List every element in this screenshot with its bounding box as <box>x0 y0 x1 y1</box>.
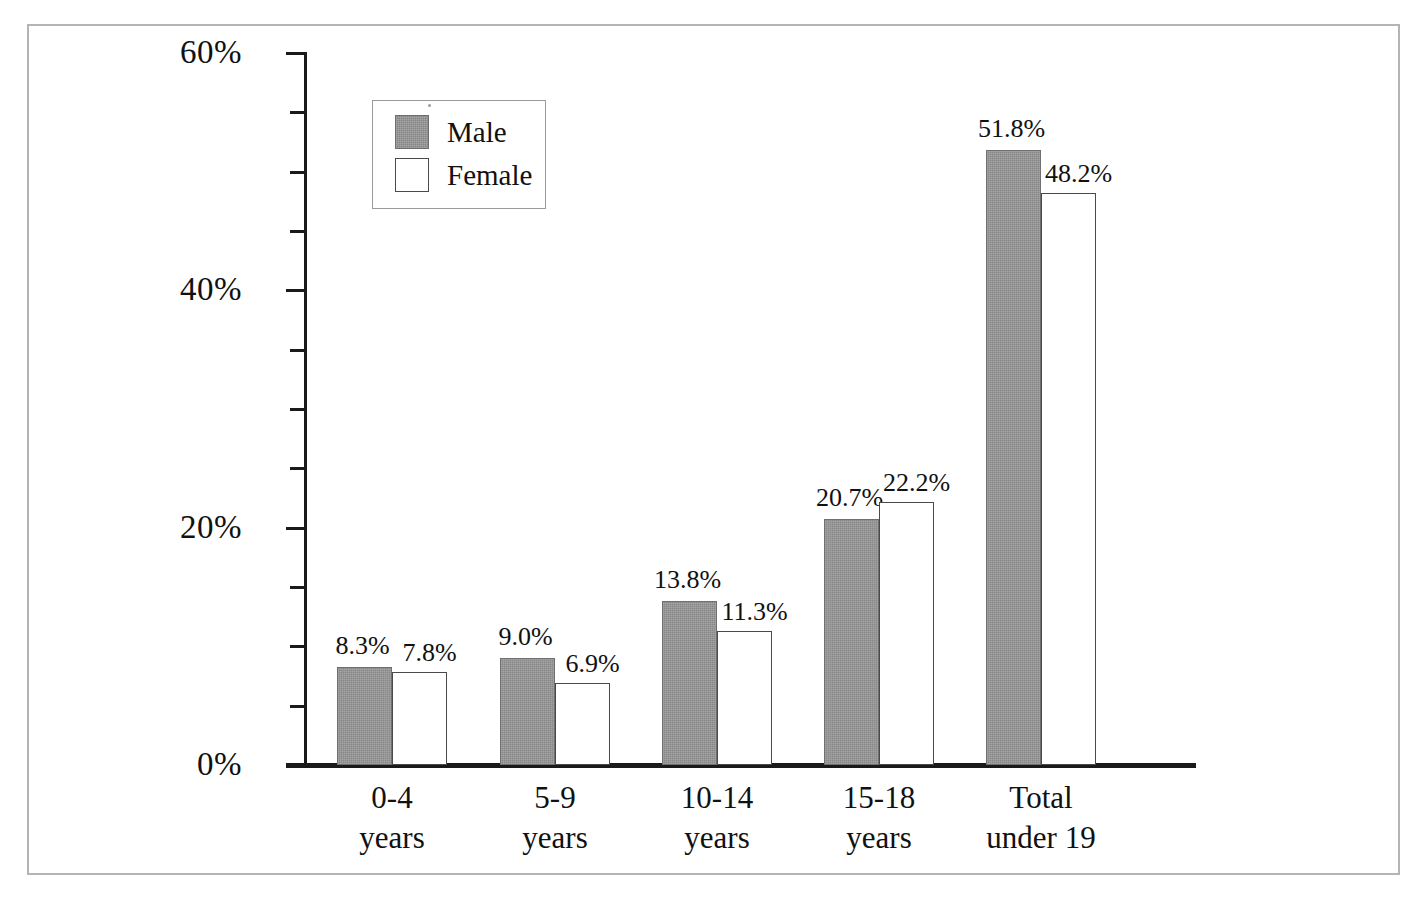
x-axis-category-label: Totalunder 19 <box>921 778 1161 858</box>
legend-label-male: Male <box>447 116 507 149</box>
legend-label-female: Female <box>447 159 532 192</box>
bar-value-label: 7.8% <box>375 640 485 666</box>
y-axis-minor-tick <box>290 705 305 708</box>
y-axis-tick-label: 40% <box>180 273 242 306</box>
bar-value-label: 48.2% <box>1024 161 1134 187</box>
bar-female <box>555 683 610 765</box>
bar-value-label: 22.2% <box>862 470 972 496</box>
bar-chart-plot-area: 0%20%40%60% 8.3%9.0%13.8%20.7%51.8%7.8%6… <box>0 0 1427 903</box>
legend-swatch-female-icon <box>395 158 429 192</box>
y-axis-tick-label: 20% <box>180 511 242 544</box>
category-label-line2: under 19 <box>921 818 1161 858</box>
bar-female <box>717 631 772 765</box>
scan-speck <box>428 104 431 107</box>
bar-value-label: 6.9% <box>538 651 648 677</box>
y-axis-minor-tick <box>290 586 305 589</box>
y-axis-minor-tick <box>290 230 305 233</box>
y-axis-minor-tick <box>290 645 305 648</box>
chart-legend: Male Female <box>372 100 546 209</box>
y-axis-major-tick <box>286 52 305 55</box>
bar-female <box>392 672 447 765</box>
category-label-line1: 0-4 <box>371 780 412 815</box>
bar-male <box>337 667 392 765</box>
bar-male <box>986 150 1041 765</box>
y-axis-major-tick <box>286 764 305 767</box>
y-axis-tick-label: 60% <box>180 36 242 69</box>
category-label-line1: 10-14 <box>681 780 753 815</box>
y-axis-major-tick <box>286 527 305 530</box>
bar-male <box>662 601 717 765</box>
bar-value-label: 51.8% <box>957 116 1067 142</box>
y-axis-minor-tick <box>290 408 305 411</box>
bar-value-label: 11.3% <box>700 599 810 625</box>
y-axis-minor-tick <box>290 349 305 352</box>
y-axis-minor-tick <box>290 171 305 174</box>
y-axis-major-tick <box>286 289 305 292</box>
bar-female <box>1041 193 1096 765</box>
bar-female <box>879 502 934 765</box>
y-axis-minor-tick <box>290 467 305 470</box>
category-label-line1: 15-18 <box>843 780 915 815</box>
legend-swatch-male-icon <box>395 115 429 149</box>
bar-male <box>824 519 879 765</box>
bar-value-label: 13.8% <box>633 567 743 593</box>
y-axis-tick-label: 0% <box>197 748 242 781</box>
category-label-line1: 5-9 <box>534 780 575 815</box>
category-label-line1: Total <box>1009 780 1072 815</box>
y-axis-minor-tick <box>290 111 305 114</box>
bar-value-label: 9.0% <box>471 624 581 650</box>
chart-page: 0%20%40%60% 8.3%9.0%13.8%20.7%51.8%7.8%6… <box>0 0 1427 903</box>
